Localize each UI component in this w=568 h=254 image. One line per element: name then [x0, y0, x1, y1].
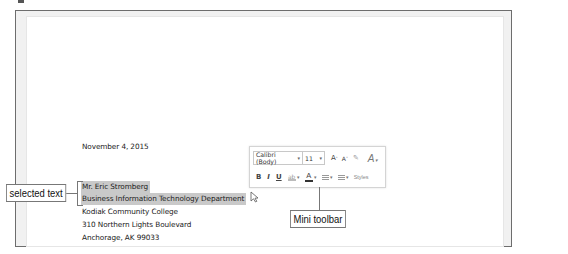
- grow-font-button[interactable]: A˄: [331, 154, 338, 162]
- address-line-department[interactable]: Business Information Technology Departme…: [81, 193, 246, 205]
- address-line-name[interactable]: Mr. Eric Stromberg: [81, 181, 150, 193]
- callout-connector: [66, 193, 77, 194]
- mini-toolbar: Calibri (Body) ▾ 11 ▾ A˄ A˅ ✎ A▾ B I U a…: [249, 146, 386, 188]
- chevron-down-icon: ▾: [297, 174, 300, 180]
- shrink-font-button[interactable]: A˅: [342, 155, 348, 162]
- chevron-down-icon: ▾: [375, 157, 378, 163]
- chevron-down-icon: ▾: [297, 155, 300, 161]
- underline-button[interactable]: U: [276, 173, 282, 181]
- italic-button[interactable]: I: [267, 173, 270, 181]
- figure-marker: [18, 0, 24, 3]
- chevron-down-icon: ▾: [314, 174, 317, 180]
- selection-bracket: [77, 181, 83, 206]
- styles-button[interactable]: Styles: [354, 174, 369, 180]
- chevron-down-icon: ▾: [319, 155, 322, 161]
- chevron-down-icon: ▾: [330, 174, 333, 180]
- styles-gallery-button[interactable]: A▾: [368, 153, 379, 164]
- font-color-button[interactable]: A: [305, 172, 313, 182]
- font-size-dropdown[interactable]: 11 ▾: [303, 151, 325, 165]
- mouse-pointer-icon: [250, 191, 259, 203]
- callout-connector: [319, 187, 320, 210]
- callout-selected-text: selected text: [6, 184, 66, 202]
- highlight-button[interactable]: ab: [288, 173, 296, 181]
- format-painter-button[interactable]: ✎: [353, 154, 359, 162]
- address-line-street[interactable]: 310 Northern Lights Boulevard: [81, 219, 193, 231]
- address-line-city[interactable]: Anchorage, AK 99033: [81, 232, 161, 244]
- font-name-value: Calibri (Body): [256, 151, 297, 165]
- bullets-button[interactable]: [322, 175, 329, 180]
- chevron-down-icon: ▾: [346, 174, 349, 180]
- address-line-college[interactable]: Kodiak Community College: [81, 206, 180, 218]
- format-painter-icon: ✎: [353, 154, 359, 162]
- bold-button[interactable]: B: [256, 173, 261, 181]
- numbering-button[interactable]: [338, 175, 345, 180]
- font-name-dropdown[interactable]: Calibri (Body) ▾: [253, 151, 303, 165]
- font-color-icon: A: [306, 172, 311, 179]
- font-size-value: 11: [305, 155, 313, 162]
- styles-icon: A: [368, 153, 375, 164]
- letter-date: November 4, 2015: [82, 142, 149, 151]
- callout-mini-toolbar: Mini toolbar: [290, 210, 346, 228]
